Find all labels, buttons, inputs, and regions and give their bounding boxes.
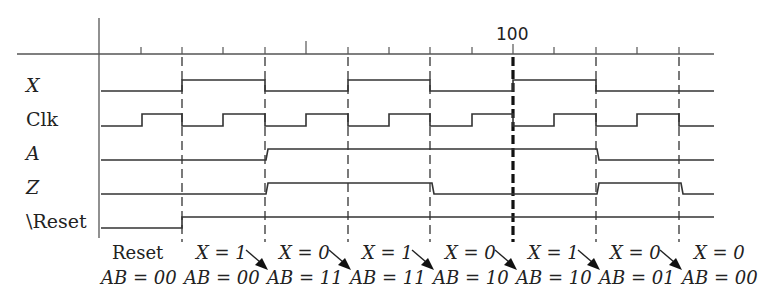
axes — [17, 18, 714, 238]
waveform-x — [101, 80, 714, 91]
waveform-reset — [101, 217, 714, 228]
state-top-1: X = 1 — [194, 242, 247, 263]
state-bottom-2: AB = 11 — [265, 267, 343, 288]
axis-ticks — [141, 41, 679, 54]
waveforms — [101, 80, 714, 228]
waveform-clk — [101, 114, 714, 126]
signal-label-z: Z — [25, 176, 40, 198]
state-top-2: X = 0 — [277, 242, 330, 263]
waveform-a — [101, 149, 714, 160]
state-top-7: X = 0 — [692, 242, 745, 263]
state-bottom-6: AB = 01 — [597, 267, 675, 288]
state-bottom-1: AB = 00 — [182, 267, 260, 288]
state-top-0: Reset — [112, 242, 164, 263]
state-top-4: X = 0 — [443, 242, 496, 263]
signal-label-x: X — [24, 74, 41, 96]
signal-labels: X Clk A Z \Reset — [24, 74, 87, 232]
state-bottom-3: AB = 11 — [348, 267, 426, 288]
state-bottom-7: AB = 00 — [680, 267, 758, 288]
state-bottom-4: AB = 10 — [431, 267, 509, 288]
state-top-5: X = 1 — [526, 242, 579, 263]
signal-label-reset: \Reset — [26, 210, 87, 232]
timing-diagram: 100 X Clk A Z \Reset Reset AB = 00 X = 1 — [0, 0, 776, 308]
state-top-3: X = 1 — [360, 242, 413, 263]
time-marker-label: 100 — [496, 24, 528, 44]
state-bottom-0: AB = 00 — [99, 267, 177, 288]
state-bottom-5: AB = 10 — [514, 267, 592, 288]
signal-label-a: A — [24, 142, 40, 164]
state-top-6: X = 0 — [608, 242, 661, 263]
waveform-z — [101, 183, 714, 194]
signal-label-clk: Clk — [26, 108, 59, 130]
